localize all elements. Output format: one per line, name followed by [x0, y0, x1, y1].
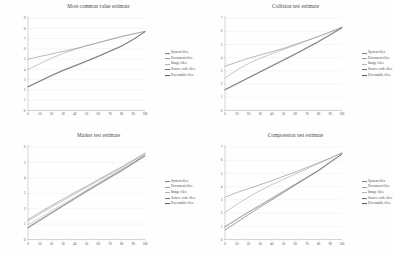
svg-text:90: 90	[132, 112, 136, 116]
svg-text:30: 30	[258, 112, 262, 116]
svg-text:100: 100	[142, 112, 147, 116]
legend-item: Executable files	[165, 202, 195, 206]
legend-item: Executable files	[362, 202, 392, 206]
svg-text:50: 50	[85, 241, 89, 245]
legend-item: Executable files	[165, 74, 195, 78]
svg-text:60: 60	[97, 112, 101, 116]
legend-swatch-icon	[362, 187, 367, 188]
legend-swatch-icon	[165, 53, 170, 54]
legend-item: System files	[165, 180, 195, 184]
chart-panel-collision-test: Collision test estimate 0123456701020304…	[197, 0, 394, 129]
svg-text:0: 0	[24, 109, 26, 113]
svg-text:5: 5	[24, 160, 26, 164]
svg-text:60: 60	[97, 241, 101, 245]
legend-swatch-icon	[165, 64, 170, 65]
legend-swatch-icon	[362, 198, 367, 199]
svg-text:10: 10	[235, 112, 239, 116]
legend-label: Executable files	[171, 202, 193, 206]
legend-item: Document files	[165, 185, 195, 189]
legend-label: Image files	[368, 63, 384, 67]
svg-text:7: 7	[221, 145, 223, 149]
svg-text:50: 50	[282, 112, 286, 116]
legend-item: Document files	[362, 57, 392, 61]
svg-text:100: 100	[339, 112, 344, 116]
legend-label: Source code files	[171, 197, 195, 201]
svg-text:3: 3	[24, 191, 26, 195]
legend-item: Document files	[362, 185, 392, 189]
legend-label: Executable files	[171, 74, 193, 78]
legend-swatch-icon	[362, 53, 367, 54]
chart-grid: Most common value estimate 0123456789010…	[0, 0, 394, 257]
svg-text:6: 6	[24, 145, 26, 149]
svg-text:6: 6	[221, 158, 223, 162]
svg-text:4: 4	[24, 176, 26, 180]
chart-legend: System filesDocument filesImage filesSou…	[362, 180, 392, 206]
svg-text:0: 0	[221, 109, 223, 113]
legend-swatch-icon	[362, 58, 367, 59]
figure-sheet: Most common value estimate 0123456789010…	[0, 0, 394, 257]
chart-panel-most-common-value: Most common value estimate 0123456789010…	[0, 0, 197, 129]
chart-legend: System filesDocument filesImage filesSou…	[165, 51, 195, 77]
legend-label: System files	[368, 51, 385, 55]
legend-label: System files	[171, 51, 188, 55]
svg-text:2: 2	[221, 82, 223, 86]
svg-text:70: 70	[108, 241, 112, 245]
svg-text:80: 80	[120, 112, 124, 116]
svg-text:30: 30	[61, 112, 65, 116]
svg-text:90: 90	[329, 241, 333, 245]
svg-text:60: 60	[294, 241, 298, 245]
svg-text:7: 7	[221, 16, 223, 20]
chart-legend: System filesDocument filesImage filesSou…	[165, 180, 195, 206]
svg-text:20: 20	[50, 112, 54, 116]
svg-text:70: 70	[305, 241, 309, 245]
legend-label: Source code files	[368, 197, 392, 201]
legend-label: System files	[368, 180, 385, 184]
svg-text:80: 80	[317, 241, 321, 245]
legend-item: System files	[362, 51, 392, 55]
svg-text:0: 0	[221, 237, 223, 241]
legend-swatch-icon	[165, 192, 170, 193]
svg-text:70: 70	[108, 112, 112, 116]
legend-label: Document files	[368, 185, 389, 189]
legend-swatch-icon	[165, 58, 170, 59]
svg-text:50: 50	[282, 241, 286, 245]
svg-text:3: 3	[221, 198, 223, 202]
legend-item: Image files	[362, 191, 392, 195]
svg-text:5: 5	[24, 57, 26, 61]
svg-text:0: 0	[24, 237, 26, 241]
svg-text:30: 30	[61, 241, 65, 245]
svg-text:40: 40	[73, 112, 77, 116]
legend-swatch-icon	[362, 64, 367, 65]
legend-swatch-icon	[362, 181, 367, 182]
svg-text:9: 9	[24, 16, 26, 20]
legend-label: Executable files	[368, 202, 390, 206]
legend-swatch-icon	[165, 198, 170, 199]
svg-text:5: 5	[221, 43, 223, 47]
svg-text:2: 2	[24, 206, 26, 210]
svg-text:30: 30	[258, 241, 262, 245]
legend-item: Source code files	[362, 68, 392, 72]
svg-text:100: 100	[142, 241, 147, 245]
svg-text:0: 0	[27, 241, 29, 245]
svg-text:70: 70	[305, 112, 309, 116]
svg-text:0: 0	[224, 112, 226, 116]
svg-text:20: 20	[247, 112, 251, 116]
legend-swatch-icon	[165, 181, 170, 182]
legend-label: Source code files	[368, 68, 392, 72]
legend-label: Document files	[171, 57, 192, 61]
svg-text:2: 2	[24, 88, 26, 92]
legend-swatch-icon	[362, 69, 367, 70]
svg-text:1: 1	[24, 98, 26, 102]
legend-item: Document files	[165, 57, 195, 61]
legend-item: Executable files	[362, 74, 392, 78]
svg-text:60: 60	[294, 112, 298, 116]
legend-swatch-icon	[165, 69, 170, 70]
svg-text:4: 4	[24, 68, 26, 72]
svg-text:20: 20	[50, 241, 54, 245]
legend-label: System files	[171, 180, 188, 184]
legend-item: System files	[165, 51, 195, 55]
svg-text:100: 100	[339, 241, 344, 245]
svg-text:80: 80	[317, 112, 321, 116]
legend-label: Image files	[171, 191, 187, 195]
legend-swatch-icon	[165, 75, 170, 76]
